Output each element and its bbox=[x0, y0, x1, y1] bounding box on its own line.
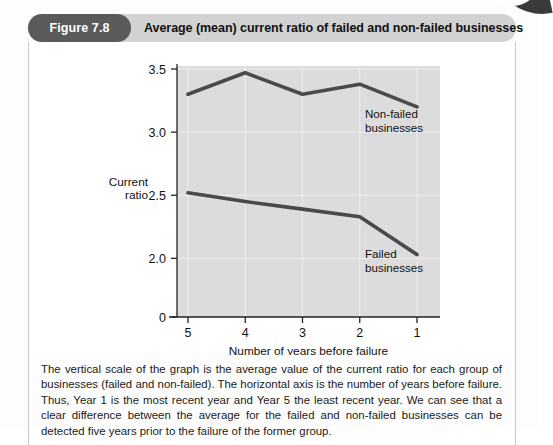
caption-text: The vertical scale of the graph is the a… bbox=[41, 362, 502, 439]
figure-title: Average (mean) current ratio of failed a… bbox=[144, 21, 523, 35]
figure-header: Figure 7.8 Average (mean) current ratio … bbox=[28, 14, 516, 42]
figure-caption: The vertical scale of the graph is the a… bbox=[28, 352, 516, 445]
figure-body bbox=[28, 42, 516, 352]
figure-number-badge: Figure 7.8 bbox=[28, 14, 131, 42]
